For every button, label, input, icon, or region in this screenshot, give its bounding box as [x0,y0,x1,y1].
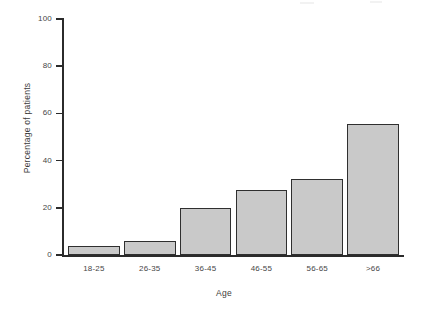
y-axis-tick [56,113,63,115]
x-axis-tick-label: 46-55 [236,264,288,273]
y-axis-title-text: Percentage of patients [22,58,32,198]
bar-chart: Percentage of patients 020406080100 18-2… [0,0,422,313]
bar [236,190,288,255]
y-axis-tick [56,254,63,256]
y-axis-tick-label: 100 [12,14,52,23]
bar [124,241,176,255]
x-axis-title: Age [0,288,422,298]
y-axis-tick-label: 20 [12,203,52,212]
bar [291,179,343,255]
x-axis-tick-label: 36-45 [180,264,232,273]
y-axis-tick [56,18,63,20]
y-axis-tick-label: 40 [12,156,52,165]
x-axis-tick-label: >66 [347,264,399,273]
x-axis-title-text: Age [216,288,232,298]
x-axis-line [62,255,404,257]
y-axis-tick [56,65,63,67]
scan-artifact [300,2,314,4]
y-axis-title: Percentage of patients [10,0,20,58]
scan-artifact [370,1,382,3]
y-axis-tick-label: 80 [12,61,52,70]
y-axis-tick [56,207,63,209]
y-axis-tick-label: 0 [12,250,52,259]
y-axis-tick [56,160,63,162]
y-axis-tick-label: 60 [12,108,52,117]
bar [347,124,399,255]
x-axis-tick-label: 26-35 [124,264,176,273]
bar [68,246,120,255]
x-axis-tick-label: 18-25 [68,264,120,273]
bar [180,208,232,255]
x-axis-tick-label: 56-65 [291,264,343,273]
y-axis-line [62,18,64,257]
